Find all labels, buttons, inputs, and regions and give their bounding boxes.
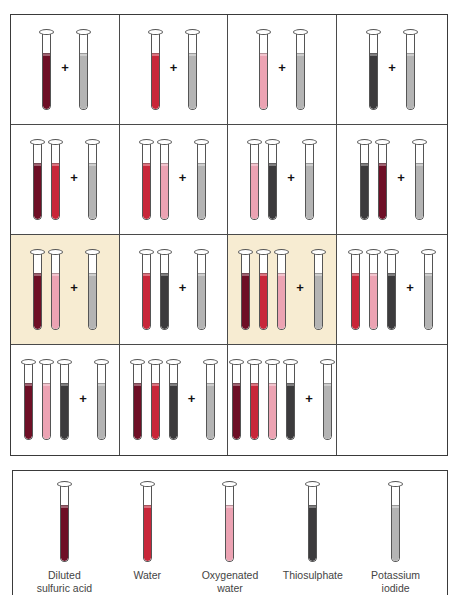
plus-sign: + [163,61,185,74]
reagent-group [139,139,172,221]
tube-combination: + [348,249,436,331]
potassium-iodide-tube-icon [421,249,436,331]
potassium-iodide-tube-icon [94,359,109,441]
combination-cell: + [120,235,228,345]
sulfuric-acid-tube-icon [21,359,36,441]
tube-combination: + [139,139,209,221]
oxygenated-water-tube-icon [39,359,54,441]
thiosulphate-tube-icon [357,139,372,221]
tube-combination: + [148,29,200,111]
potassium-iodide-tube-icon [311,249,326,331]
potassium-iodide-tube-icon [302,139,317,221]
legend-item-water: Water [107,481,187,595]
plus-sign: + [289,281,311,294]
reagent-group [130,359,181,441]
tube-combination: + [21,359,109,441]
sulfuric-acid-tube-icon [39,29,54,111]
legend-item-oxygenated-water: Oxygenated water [190,481,270,595]
thiosulphate-tube-icon [366,29,381,111]
legend: Diluted sulfuric acidWaterOxygenated wat… [12,470,448,595]
oxygenated-water-tube-icon [256,29,271,111]
combination-cell: + [228,15,337,125]
thiosulphate-tube-icon [57,359,72,441]
reagent-group [229,359,298,441]
combination-cell: + [120,125,228,235]
potassium-iodide-tube-icon [76,29,91,111]
sulfuric-acid-tube-icon [238,249,253,331]
legend-item-sulfuric-acid: Diluted sulfuric acid [24,481,104,595]
plus-sign: + [280,171,302,184]
reagent-group [256,29,271,111]
combination-cell: + [11,125,120,235]
combination-cell: + [228,125,337,235]
plus-sign: + [172,281,194,294]
water-tube-icon [48,139,63,221]
potassium-iodide-tube-icon [293,29,308,111]
legend-label: Thiosulphate [283,569,343,582]
plus-sign: + [72,392,94,405]
plus-sign: + [63,171,85,184]
plus-sign: + [298,392,320,405]
potassium-iodide-tube-icon [85,139,100,221]
reagent-group [148,29,163,111]
sulfuric-acid-tube-icon [57,481,72,563]
potassium-iodide-tube-icon [85,249,100,331]
oxygenated-water-tube-icon [48,249,63,331]
potassium-iodide-tube-icon [203,359,218,441]
reagent-group [348,249,399,331]
reagent-group [357,139,390,221]
sulfuric-acid-tube-icon [375,139,390,221]
tube-combination: + [30,249,100,331]
water-tube-icon [256,249,271,331]
reagent-group [139,249,172,331]
legend-label: Oxygenated water [202,569,259,594]
plus-sign: + [181,392,203,405]
tube-combination: + [139,249,209,331]
combination-cell: + [120,15,228,125]
oxygenated-water-tube-icon [222,481,237,563]
potassium-iodide-tube-icon [320,359,335,441]
sulfuric-acid-tube-icon [30,139,45,221]
potassium-iodide-tube-icon [194,139,209,221]
tube-combination: + [30,139,100,221]
combination-cell: + [11,345,120,455]
oxygenated-water-tube-icon [265,359,280,441]
oxygenated-water-tube-icon [274,249,289,331]
potassium-iodide-tube-icon [185,29,200,111]
thiosulphate-tube-icon [265,139,280,221]
combination-cell: + [120,345,228,455]
combination-cell: + [11,15,120,125]
combination-cell: + [228,345,337,455]
combination-cell: + [337,235,447,345]
water-tube-icon [140,481,155,563]
tube-combination: + [366,29,418,111]
sulfuric-acid-tube-icon [30,249,45,331]
empty-cell [337,345,447,455]
reagent-group [247,139,280,221]
sulfuric-acid-tube-icon [229,359,244,441]
legend-item-potassium-iodide: Potassium iodide [356,481,436,595]
plus-sign: + [63,281,85,294]
water-tube-icon [139,249,154,331]
thiosulphate-tube-icon [384,249,399,331]
thiosulphate-tube-icon [283,359,298,441]
plus-sign: + [381,61,403,74]
sulfuric-acid-tube-icon [130,359,145,441]
water-tube-icon [148,359,163,441]
tube-combination: + [357,139,427,221]
tube-combination: + [238,249,326,331]
thiosulphate-tube-icon [166,359,181,441]
tube-combination: + [39,29,91,111]
reagent-group [238,249,289,331]
water-tube-icon [148,29,163,111]
legend-label: Potassium iodide [371,569,420,594]
reagent-group [30,139,63,221]
combination-cell: + [337,15,447,125]
potassium-iodide-tube-icon [403,29,418,111]
reagent-group [366,29,381,111]
plus-sign: + [172,171,194,184]
tube-combination: + [130,359,218,441]
combination-cell: + [337,125,447,235]
oxygenated-water-tube-icon [247,139,262,221]
plus-sign: + [399,281,421,294]
